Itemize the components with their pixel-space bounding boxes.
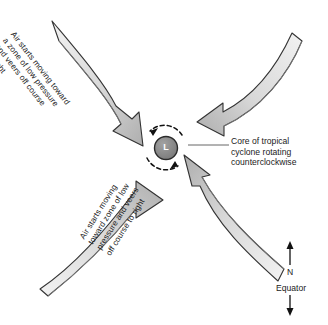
rotation-arrowhead-top: [150, 128, 158, 136]
bottom-right-arrow: [184, 155, 284, 281]
compass-north-label: N: [282, 267, 298, 277]
top-left-arrow: [52, 21, 143, 146]
top-right-arrow: [197, 33, 302, 136]
compass-north-arrow-icon: [287, 241, 294, 265]
compass-equator-arrow-icon: [287, 295, 294, 316]
core-callout-text: Core of tropical cyclone rotating counte…: [231, 136, 296, 168]
cyclone-diagram: Air starts moving toward a zone of low p…: [0, 0, 328, 325]
core-low-pressure-symbol: L: [157, 142, 175, 152]
compass-equator-label: Equator: [268, 283, 314, 293]
